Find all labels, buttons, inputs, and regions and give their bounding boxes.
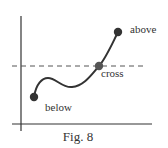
point-above <box>114 28 122 36</box>
figure-diagram: above cross below Fig. 8 <box>0 0 168 148</box>
curve <box>34 32 118 97</box>
label-above: above <box>130 23 156 35</box>
label-cross: cross <box>101 67 124 79</box>
figure-caption: Fig. 8 <box>63 129 93 144</box>
point-below <box>30 93 38 101</box>
label-below: below <box>45 101 72 113</box>
